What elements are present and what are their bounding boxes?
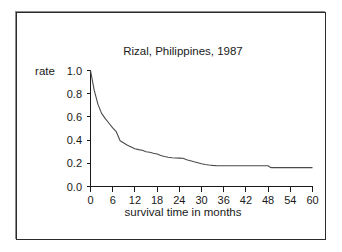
figure-frame: Rizal, Philippines, 1987 rate survival t… [16,12,326,240]
y-tick-label: 1.0 [67,65,82,77]
y-tick-marks [87,71,91,187]
x-tick-marks [91,187,313,192]
x-tick-label: 54 [284,194,296,206]
y-axis-label: rate [35,65,55,77]
y-tick-label: 0.6 [67,111,82,123]
x-tick-label: 18 [151,194,163,206]
y-tick-label: 0.2 [67,157,82,169]
x-tick-label: 36 [218,194,230,206]
y-tick-label: 0.8 [67,88,82,100]
survival-curve-chart: Rizal, Philippines, 1987 rate survival t… [17,13,325,239]
x-tick-label: 30 [195,194,207,206]
chart-title: Rizal, Philippines, 1987 [123,45,243,57]
y-tick-labels: 1.0 0.8 0.6 0.4 0.2 0.0 [67,65,82,193]
y-tick-label: 0.4 [67,134,82,146]
x-tick-label: 0 [87,194,93,206]
x-tick-label: 12 [129,194,141,206]
x-tick-label: 24 [173,194,185,206]
x-tick-label: 6 [110,194,116,206]
y-tick-label: 0.0 [67,181,82,193]
survival-rate-line [91,71,313,168]
x-tick-label: 42 [240,194,252,206]
x-tick-label: 60 [306,194,318,206]
x-tick-label: 48 [262,194,274,206]
x-axis-label: survival time in months [125,206,242,218]
x-tick-labels: 0 6 12 18 24 30 36 42 48 54 60 [87,194,318,206]
